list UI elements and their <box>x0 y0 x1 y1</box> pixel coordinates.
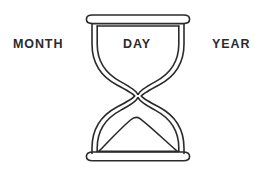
label-month: MONTH <box>13 38 63 51</box>
label-year: YEAR <box>212 38 250 51</box>
hourglass-lower-bulb-inner <box>97 98 137 152</box>
hourglass-sand-mound <box>100 117 177 150</box>
hourglass-date-diagram: MONTH DAY YEAR <box>0 0 273 172</box>
hourglass-lower-bulb-outer <box>92 96 135 154</box>
hourglass-icon <box>0 0 273 172</box>
hourglass-top-cap <box>86 15 189 24</box>
label-day: DAY <box>123 38 151 51</box>
hourglass-figure <box>0 0 273 172</box>
hourglass-lower-bulb-inner-right <box>138 98 178 152</box>
hourglass-bottom-cap <box>86 152 189 161</box>
